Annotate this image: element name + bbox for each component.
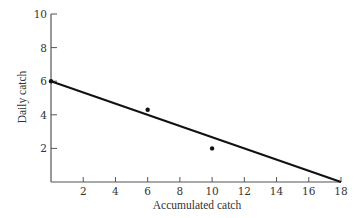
x-tick-label: 10 [205, 185, 218, 197]
x-tick-label: 14 [270, 185, 284, 197]
x-tick-label: 18 [334, 185, 347, 197]
y-axis-label: Daily catch [16, 70, 29, 123]
x-tick-label: 12 [238, 185, 251, 197]
regression-line [51, 81, 341, 182]
x-axis-label: Accumulated catch [153, 199, 242, 211]
x-tick-label: 8 [177, 185, 184, 197]
x-tick-label: 6 [144, 185, 151, 197]
y-tick-label: 6 [40, 75, 47, 87]
y-tick-label: 10 [34, 8, 47, 20]
data-point [49, 79, 53, 83]
x-tick-label: 4 [112, 185, 119, 197]
x-tick-label: 2 [80, 185, 87, 197]
data-point [145, 108, 149, 112]
y-tick-label: 4 [40, 109, 47, 121]
y-tick-label: 8 [40, 42, 47, 54]
chart: 24681012141618246810 Accumulated catch D… [0, 0, 364, 218]
x-tick-label: 16 [302, 185, 316, 197]
data-point [210, 146, 214, 150]
axes [51, 14, 341, 182]
fit-line [51, 81, 341, 182]
y-tick-label: 2 [40, 142, 47, 154]
